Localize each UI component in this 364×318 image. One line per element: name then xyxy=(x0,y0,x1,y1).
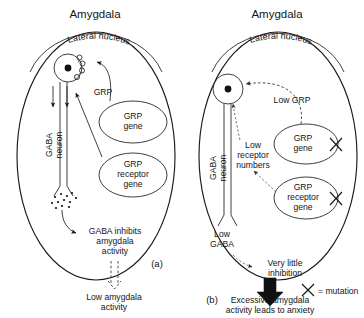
gaba-neuron-label-line1-b: GABA xyxy=(208,156,218,180)
figure-canvas: Amygdala Lateral nucleus xyxy=(0,0,364,318)
neuron-nucleus-a xyxy=(65,65,72,72)
grp-receptor-gene-line1-b: GRP xyxy=(294,182,313,192)
neuron-nucleus-b xyxy=(225,86,232,93)
gaba-inhibits-line1-a: GABA inhibits xyxy=(89,226,142,236)
grp-receptors-a xyxy=(75,55,86,81)
panel-a: Amygdala Lateral nucleus xyxy=(17,8,175,312)
mutation-x-grp-receptor-gene-b xyxy=(330,192,342,205)
grp-receptor-gene-line3-b: gene xyxy=(293,202,312,212)
grp-receptor-gene-line3-a: gene xyxy=(123,179,142,189)
low-amygdala-activity-line2-a: activity xyxy=(101,302,128,312)
grp-gene-label-line2-b: gene xyxy=(293,143,312,153)
low-gaba-line1-b: Low xyxy=(214,229,231,239)
grp-receptor-gene-line2-b: receptor xyxy=(287,192,319,202)
gaba-neuron-label-line2-b: neuron xyxy=(218,154,228,181)
low-receptor-to-soma-arrow-b xyxy=(233,104,240,140)
gaba-neuron-label-line1-a: GABA xyxy=(44,133,54,157)
panel-b-id: (b) xyxy=(206,294,218,305)
mutation-x-grp-gene-b xyxy=(330,138,342,151)
low-grp-label-b: Low GRP xyxy=(274,95,311,105)
panel-b: Amygdala Lateral nucleus Low GRP GRP gen… xyxy=(199,8,359,315)
grp-gene-label-line1-a: GRP xyxy=(124,111,143,121)
lateral-nucleus-label-b: Lateral nucleus xyxy=(248,31,314,47)
receptor-trafficking-line-a xyxy=(76,93,102,157)
grp-gene-label-line1-b: GRP xyxy=(294,133,313,143)
grp-receptor-gene-line1-a: GRP xyxy=(124,159,143,169)
panel-a-id: (a) xyxy=(151,258,163,269)
low-amygdala-activity-line1-a: Low amygdala xyxy=(86,292,142,302)
grp-gene-label-line2-a: gene xyxy=(123,121,142,131)
panel-b-title: Amygdala xyxy=(251,8,303,20)
gaba-inhibits-line2-a: amygdala xyxy=(96,236,133,246)
panel-a-title: Amygdala xyxy=(69,8,121,20)
gaba-inhibition-arrow-a xyxy=(62,210,76,233)
lateral-nucleus-label-a: Lateral nucleus xyxy=(66,31,132,47)
excessive-activity-outcome-line1: Excessive amygdala xyxy=(231,295,310,305)
gaba-inhibits-line3-a: activity xyxy=(102,246,129,256)
low-receptor-arrow-b xyxy=(254,171,276,192)
low-receptor-line1-b: Low xyxy=(245,140,262,150)
very-little-line1-b: Very little xyxy=(268,258,303,268)
gaba-neuron-label-line2-a: neuron xyxy=(54,131,64,158)
low-receptor-line3-b: numbers xyxy=(236,160,269,170)
excessive-activity-outcome-line2: activity leads to anxiety xyxy=(226,305,315,315)
mechanism-diagram: Amygdala Lateral nucleus xyxy=(0,0,364,318)
very-little-line2-b: inhibition xyxy=(268,268,302,278)
low-receptor-line2-b: receptor xyxy=(237,150,269,160)
grp-receptor-gene-line2-a: receptor xyxy=(117,169,149,179)
low-gaba-line2-b: GABA xyxy=(210,239,234,249)
grp-label-a: GRP xyxy=(94,87,113,97)
mutation-legend-label: = mutation xyxy=(318,286,359,296)
